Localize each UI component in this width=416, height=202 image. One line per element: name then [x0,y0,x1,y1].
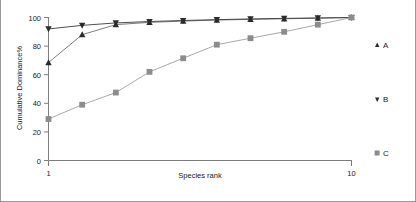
cumulative-dominance-chart: 100 80 60 40 20 0 1 10 Species rank Cumu… [0,0,416,202]
marker-triangle-up [45,59,51,65]
series-c [46,15,355,122]
legend-label-b: B [383,95,388,104]
marker-square [214,42,220,48]
y-tick-label-40: 40 [33,99,41,108]
chart-legend: A B C [375,41,389,159]
marker-square [349,15,355,21]
x-tick-label-min: 1 [46,169,50,178]
y-axis-title: Cumulative Dominance% [15,46,24,131]
series-b [45,15,354,32]
y-tick-label-0: 0 [37,157,41,166]
marker-square [79,102,85,108]
marker-square [315,22,321,28]
x-axis-title: Species rank [178,171,222,180]
marker-square [46,116,52,122]
chart-figure: 100 80 60 40 20 0 1 10 Species rank Cumu… [0,0,416,202]
marker-triangle-down [45,26,51,32]
y-tick-label-20: 20 [33,128,41,137]
marker-square [147,69,153,75]
triangle-up-icon [375,43,379,47]
y-tick-label-60: 60 [33,71,41,80]
y-tick-label-100: 100 [28,14,41,23]
series-a [45,14,354,65]
legend-label-c: C [383,149,389,158]
legend-entry-a[interactable]: A [375,41,389,50]
x-axis-ticks [49,161,352,167]
triangle-down-icon [375,98,379,102]
y-axis-ticks [44,18,49,161]
x-tick-label-max: 10 [347,169,355,178]
y-tick-label-80: 80 [33,42,41,51]
series-line-c [49,18,352,120]
marker-square [248,35,254,41]
legend-entry-c[interactable]: C [375,149,389,158]
series-layer [45,14,354,122]
marker-square [281,29,287,35]
marker-square [113,90,119,96]
legend-entry-b[interactable]: B [375,95,388,104]
legend-label-a: A [383,41,389,50]
marker-square [180,55,186,61]
square-icon [375,151,380,156]
